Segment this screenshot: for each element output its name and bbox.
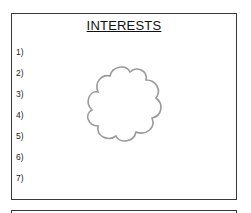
list-item-7: 7) — [16, 173, 24, 183]
list-item-2: 2) — [16, 68, 24, 78]
list-item-3: 3) — [16, 89, 24, 99]
list-item-4: 4) — [16, 110, 24, 120]
list-item-5: 5) — [16, 131, 24, 141]
list-item-1: 1) — [16, 47, 24, 57]
list-item-6: 6) — [16, 152, 24, 162]
page-title: INTERESTS — [12, 18, 236, 33]
cloud-icon — [80, 62, 174, 148]
bottom-box — [11, 210, 237, 213]
